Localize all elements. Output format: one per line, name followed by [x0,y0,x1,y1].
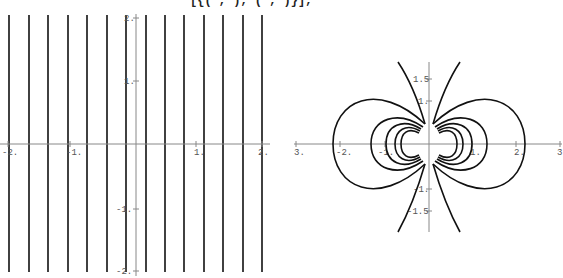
y-tick-label: 1. [124,77,135,87]
y-tick-label: -2. [116,267,132,277]
x-tick-label: -2. [336,148,352,158]
x-tick-label: 3. [294,148,305,158]
left-plot-vertical-lines: -2. -1. 1. 2. 2. 1. -1. -2. [0,0,280,278]
x-tick-label: -2. [2,148,18,158]
y-tick-label: 1.5 [413,75,429,85]
y-tick-label: 2. [124,14,135,24]
x-tick-label: 3 [557,148,562,158]
x-tick-label: -1. [66,148,82,158]
left-plot-svg: -2. -1. 1. 2. 2. 1. -1. -2. [0,0,280,278]
right-plot-svg: 3. -2. -1. 1. 2. 3 1.5 1. -1. -1.5 [290,0,563,278]
x-tick-label: 1. [194,148,205,158]
y-tick-label: -1. [116,205,132,215]
x-tick-label: 2. [258,148,269,158]
y-tick-label: -1.5 [407,207,429,217]
right-plot-dipole-contours: 3. -2. -1. 1. 2. 3 1.5 1. -1. -1.5 [290,0,563,278]
